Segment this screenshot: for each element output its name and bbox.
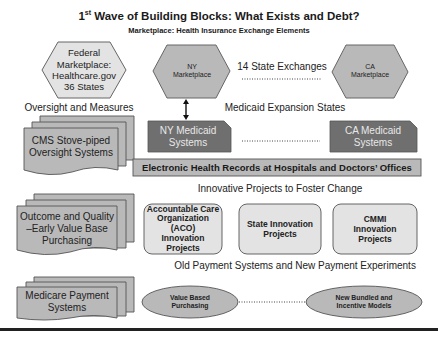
state-innovation-label: State Innovation Projects [239,204,321,254]
oversight-section-label: Oversight and Measures [20,101,138,115]
state-innovation-line-1: State Innovation [247,219,313,229]
ny-marketplace-label: NY Marketplace [158,55,226,87]
ny-medicaid-line-2: Systems [169,137,207,149]
value-based-line-2: Purchasing [171,302,208,310]
federal-line-4: 36 States [64,81,104,92]
bundled-line-2: Incentive Models [337,302,392,310]
innovation-section-label: Innovative Projects to Foster Change [190,182,370,196]
arrow-up-icon [183,99,189,104]
medicare-line-2: Systems [48,302,86,314]
arrow-down-icon [183,115,189,120]
ca-medicaid-label: CA Medicaid Systems [331,122,415,152]
medicare-line-1: Medicare Payment [25,290,108,302]
cmmi-line-1: CMMI [364,214,387,224]
outcome-line-2: –Early Value Base [26,223,108,235]
cmmi-line-2: Innovation [354,224,397,234]
aco-line-2: Organization (ACO) [144,214,222,234]
oversight-line-2: Oversight Systems [29,147,113,159]
cmmi-line-3: Projects [358,234,392,244]
medicaid-section-label: Medicaid Expansion States [210,101,360,115]
federal-line-3: Healthcare.gov [52,70,116,81]
ca-medicaid-line-1: CA Medicaid [345,125,401,137]
state-exchanges-label: 14 State Exchanges [238,60,326,74]
ny-medicaid-line-1: NY Medicaid [160,125,217,137]
value-based-line-1: Value Based [170,294,210,302]
state-innovation-line-2: Projects [263,229,297,239]
ca-line-2: Marketplace [351,71,389,79]
oversight-doc-label: CMS Stove-piped Oversight Systems [24,131,118,163]
ny-medicaid-label: NY Medicaid Systems [148,122,228,152]
value-based-label: Value Based Purchasing [150,288,230,316]
outcome-line-3: Purchasing [42,235,92,247]
bundled-models-label: New Bundled and Incentive Models [314,288,414,316]
aco-projects-label: Accountable Care Organization (ACO) Inno… [144,204,222,254]
cmmi-projects-label: CMMI Innovation Projects [333,204,417,254]
medicare-doc-label: Medicare Payment Systems [17,288,117,316]
ca-medicaid-line-2: Systems [354,137,392,149]
federal-line-2: Marketplace: [57,59,111,70]
ny-line-1: NY [187,63,197,71]
ca-marketplace-label: CA Marketplace [336,55,404,87]
oversight-line-1: CMS Stove-piped [32,135,110,147]
federal-marketplace-label: Federal Marketplace: Healthcare.gov 36 S… [48,44,120,96]
aco-line-4: Projects [166,244,200,254]
outcome-line-1: Outcome and Quality [20,211,114,223]
federal-line-1: Federal [68,47,100,58]
bottom-rule [0,328,438,331]
ny-line-2: Marketplace [173,71,211,79]
outcome-doc-label: Outcome and Quality –Early Value Base Pu… [17,209,117,249]
payment-section-label: Old Payment Systems and New Payment Expe… [175,259,415,273]
ca-line-1: CA [365,63,375,71]
ehr-label: Electronic Health Records at Hospitals a… [133,159,421,176]
bundled-line-1: New Bundled and [335,294,392,302]
